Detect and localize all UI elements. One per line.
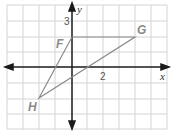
y-tick-label: 3	[64, 16, 70, 27]
x-axis-label: x	[159, 70, 165, 82]
point-label-f: F	[56, 37, 64, 51]
point-label-g: G	[137, 23, 146, 37]
x-tick-label: 2	[100, 71, 106, 82]
y-axis-label: y	[76, 3, 82, 15]
point-label-h: H	[28, 100, 37, 114]
y-axis	[69, 3, 75, 129]
coordinate-plane: y x 3 2 F G H	[0, 0, 176, 135]
